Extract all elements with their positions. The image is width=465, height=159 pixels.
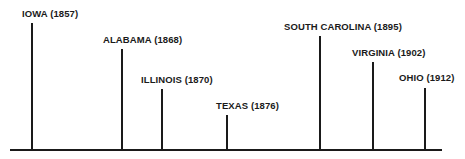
event-year: (1857) xyxy=(50,8,78,19)
event-year: (1912) xyxy=(426,72,454,83)
event-label: VIRGINIA (1902) xyxy=(352,47,426,58)
event-label: TEXAS (1876) xyxy=(216,100,279,111)
event-year: (1876) xyxy=(251,100,279,111)
event-label: OHIO (1912) xyxy=(399,72,455,83)
state-name: ALABAMA xyxy=(103,34,151,45)
state-name: VIRGINIA xyxy=(352,47,395,58)
state-name: TEXAS xyxy=(216,100,248,111)
event-stem-alabama xyxy=(121,49,123,150)
event-stem-ohio xyxy=(424,88,426,150)
state-name: IOWA xyxy=(22,8,47,19)
event-stem-texas xyxy=(226,115,228,150)
event-year: (1902) xyxy=(397,47,425,58)
event-label: SOUTH CAROLINA (1895) xyxy=(284,21,402,32)
event-stem-south-carolina xyxy=(319,36,321,150)
event-stem-virginia xyxy=(372,62,374,150)
event-label: ILLINOIS (1870) xyxy=(141,74,213,85)
event-year: (1870) xyxy=(185,74,213,85)
state-name: SOUTH CAROLINA xyxy=(284,21,371,32)
event-stem-illinois xyxy=(161,89,163,150)
event-label: ALABAMA (1868) xyxy=(103,34,182,45)
state-name: ILLINOIS xyxy=(141,74,182,85)
event-stem-iowa xyxy=(31,23,33,150)
event-label: IOWA (1857) xyxy=(22,8,78,19)
event-year: (1895) xyxy=(374,21,402,32)
event-year: (1868) xyxy=(154,34,182,45)
state-name: OHIO xyxy=(399,72,424,83)
